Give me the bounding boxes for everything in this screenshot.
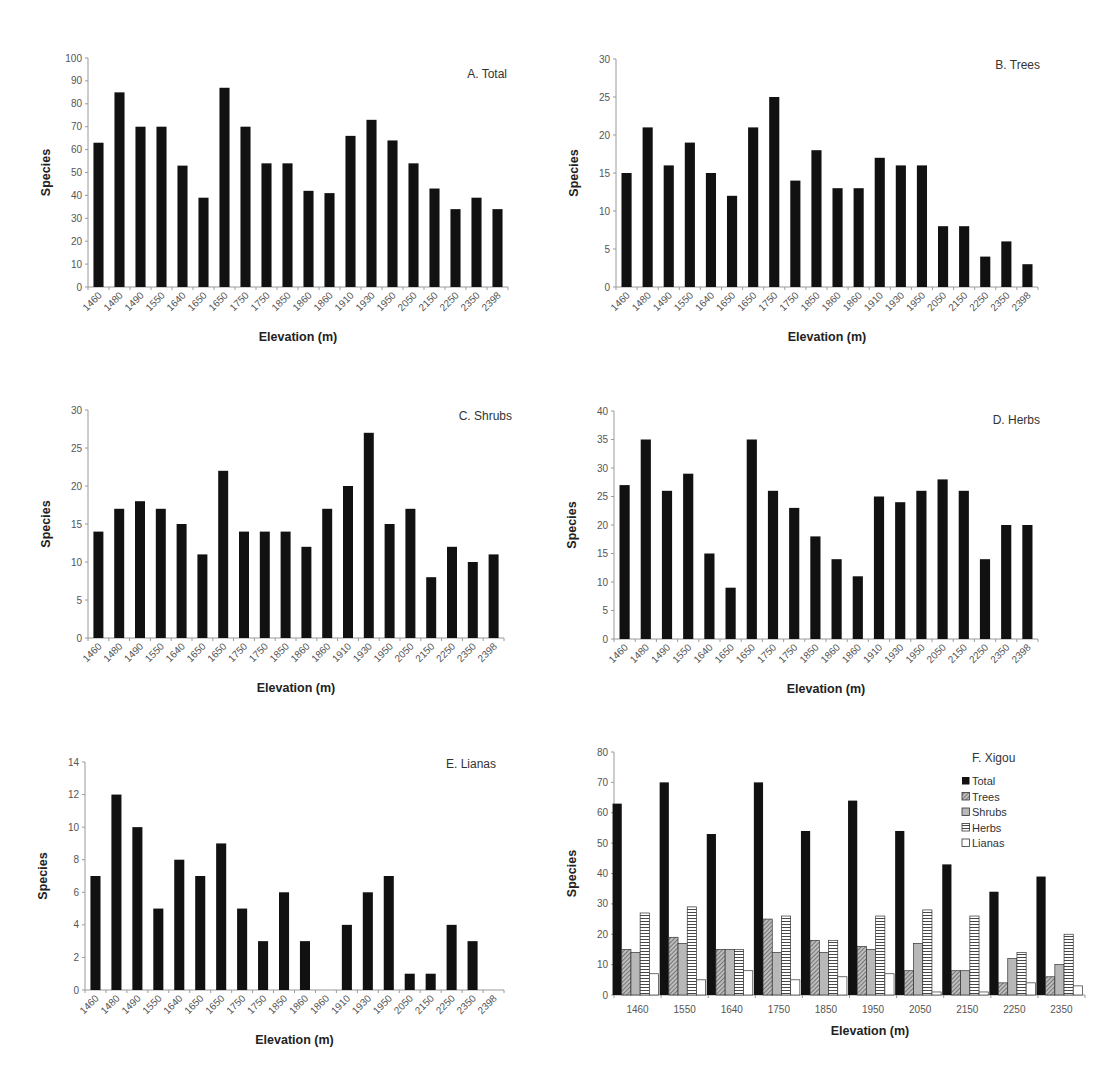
legend-label: Herbs [972,822,1002,834]
x-tick-label: 1750 [768,1004,791,1015]
bar-lianas [1073,986,1082,995]
bar-herbs [829,940,838,995]
bar-total [801,831,810,995]
x-tick-label: 1640 [721,1004,744,1015]
bar-shrubs [772,952,781,995]
x-tick-label: 1850 [815,1004,838,1015]
bar-lianas [838,977,847,995]
chart-panel-f-xigou: 01020304050607080SpeciesF. Xigou14601550… [0,0,1106,1068]
bar-shrubs [678,943,687,995]
legend-label: Shrubs [972,806,1007,818]
bar-herbs [640,913,649,995]
bar-herbs [781,916,790,995]
bar-shrubs [1008,959,1017,995]
bar-trees [622,949,631,995]
x-tick-label: 2350 [1050,1004,1073,1015]
bar-trees [716,949,725,995]
bar-trees [999,983,1008,995]
bar-trees [951,971,960,995]
x-tick-label: 1550 [674,1004,697,1015]
y-axis-title: Species [565,850,579,897]
chart-svg: 01020304050607080SpeciesF. Xigou14601550… [0,0,1106,1068]
panel-title: F. Xigou [972,751,1015,765]
bar-herbs [1017,952,1026,995]
y-tick-label: 20 [597,929,609,940]
bar-shrubs [866,949,875,995]
bar-total [1036,877,1045,995]
bar-total [660,782,669,995]
legend-swatch-shrubs [962,808,970,816]
x-tick-label: 2150 [956,1004,979,1015]
legend-swatch-trees [962,793,970,801]
bar-total [848,801,857,995]
bar-trees [810,940,819,995]
legend-label: Trees [972,791,1000,803]
bar-trees [669,937,678,995]
bar-shrubs [1055,965,1064,995]
bar-trees [904,971,913,995]
x-axis-title: Elevation (m) [831,1024,910,1038]
bar-lianas [979,992,988,995]
bar-herbs [923,910,932,995]
y-tick-label: 70 [597,777,609,788]
bar-herbs [970,916,979,995]
y-tick-label: 40 [597,868,609,879]
bar-herbs [687,907,696,995]
bar-trees [857,946,866,995]
bar-shrubs [725,949,734,995]
bar-shrubs [914,943,923,995]
bar-lianas [744,971,753,995]
y-tick-label: 50 [597,838,609,849]
legend-label: Total [972,775,995,787]
x-tick-label: 1460 [626,1004,649,1015]
bar-total [613,804,622,995]
bar-herbs [734,949,743,995]
x-tick-label: 2250 [1003,1004,1026,1015]
bar-total [942,864,951,995]
bar-total [895,831,904,995]
legend: TotalTreesShrubsHerbsLianas [962,775,1007,849]
y-tick-label: 30 [597,898,609,909]
bar-lianas [1026,983,1035,995]
x-tick-label: 1950 [862,1004,885,1015]
legend-swatch-lianas [962,839,970,847]
bar-lianas [696,980,705,995]
bar-lianas [885,974,894,995]
x-tick-label: 2050 [909,1004,932,1015]
bar-shrubs [631,952,640,995]
legend-label: Lianas [972,837,1005,849]
bar-lianas [932,992,941,995]
bar-total [707,834,716,995]
y-tick-label: 10 [597,959,609,970]
bar-trees [763,919,772,995]
bar-trees [1046,977,1055,995]
bar-shrubs [819,952,828,995]
bar-shrubs [961,971,970,995]
bar-lianas [791,980,800,995]
bar-herbs [876,916,885,995]
y-tick-label: 60 [597,807,609,818]
legend-swatch-herbs [962,824,970,832]
bar-lianas [649,974,658,995]
bar-total [989,892,998,995]
y-tick-label: 80 [597,747,609,758]
bar-total [754,782,763,995]
bar-herbs [1064,934,1073,995]
y-tick-label: 0 [602,990,608,1001]
legend-swatch-total [962,777,970,785]
